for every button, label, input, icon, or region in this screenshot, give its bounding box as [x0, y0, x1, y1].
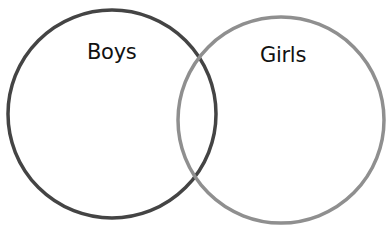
boys-label: Boys	[87, 40, 136, 64]
girls-label: Girls	[260, 43, 306, 67]
venn-diagram	[0, 0, 388, 228]
